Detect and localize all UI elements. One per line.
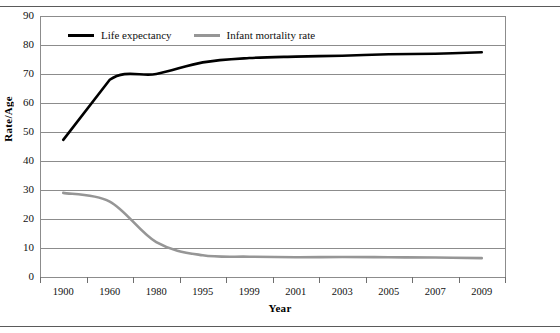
x-tick [226,277,227,283]
x-axis-tick-labels: 1900196019801995199920012003200520072009 [0,286,560,300]
x-tick [459,277,460,283]
y-tick-label: 50 [23,126,34,137]
x-tick-label: 1980 [136,286,176,298]
series-lines [40,16,505,277]
y-tick-label: 60 [23,97,34,108]
legend-label: Infant mortality rate [227,30,316,41]
plot-right-edge [505,16,506,277]
chart-legend: Life expectancy Infant mortality rate [68,30,315,41]
plot-area [40,16,505,277]
x-axis-ticks [40,277,505,283]
x-tick [180,277,181,283]
legend-item-infant-mortality: Infant mortality rate [194,30,316,41]
x-tick [366,277,367,283]
x-tick [87,277,88,283]
x-tick [505,277,506,283]
y-tick-label: 30 [23,184,34,195]
legend-item-life-expectancy: Life expectancy [68,30,172,41]
x-tick-label: 2007 [415,286,455,298]
x-tick [273,277,274,283]
y-tick-label: 0 [29,271,35,282]
y-axis-tick-labels: 9080706050403020100 [0,0,40,293]
legend-swatch-icon [68,34,94,37]
x-tick-label: 2001 [276,286,316,298]
chart-figure: Rate/Age 9080706050403020100 19001960198… [0,0,560,333]
legend-label: Life expectancy [101,30,172,41]
legend-swatch-icon [194,34,220,37]
x-tick-label: 1900 [43,286,83,298]
y-tick-label: 90 [23,10,34,21]
x-tick [319,277,320,283]
x-tick [40,277,41,283]
x-tick-label: 1999 [229,286,269,298]
y-tick-label: 40 [23,155,34,166]
x-tick-label: 1995 [183,286,223,298]
x-tick-label: 2005 [369,286,409,298]
x-tick-label: 2003 [322,286,362,298]
y-tick-label: 10 [23,242,34,253]
x-tick-label: 1960 [90,286,130,298]
y-tick-label: 70 [23,68,34,79]
series-life-expectancy-line [63,52,482,140]
x-tick [133,277,134,283]
x-axis-title: Year [0,302,560,314]
bottom-divider [0,326,560,327]
x-tick [412,277,413,283]
series-infant-mortality-line [63,193,482,258]
y-tick-label: 80 [23,39,34,50]
y-tick-label: 20 [23,213,34,224]
x-tick-label: 2009 [462,286,502,298]
top-divider [0,6,560,7]
